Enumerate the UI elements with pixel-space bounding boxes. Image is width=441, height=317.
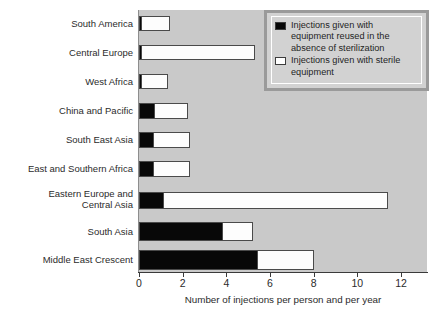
x-tick-label: 2 [168,277,198,289]
legend-item-label: Injections given with sterile equipment [291,55,400,78]
bar-segment-sterile [222,222,252,241]
bar-segment-reused [139,192,164,209]
category-label: China and Pacific [0,105,133,117]
legend-item-label: Injections given with equipment reused i… [291,20,390,54]
bar-segment-reused [139,222,223,241]
x-axis-line [138,272,428,273]
bar-chart-figure: South AmericaCentral EuropeWest AfricaCh… [0,0,441,317]
black-square-icon [275,22,286,30]
bar-segment-sterile [257,250,314,270]
bar-segment-sterile [154,103,188,119]
bar-row[interactable] [139,132,190,148]
chart-legend-inner: Injections given with equipment reused i… [271,16,422,84]
x-tick-label: 10 [342,277,372,289]
bar-segment-reused [139,250,258,270]
bar-segment-reused [139,103,155,119]
bar-row[interactable] [139,74,168,89]
bar-segment-sterile [153,132,190,148]
bar-row[interactable] [139,45,255,60]
bar-row[interactable] [139,103,188,119]
category-label: Middle East Crescent [0,254,133,266]
x-tick-label: 8 [299,277,329,289]
category-label: East and Southern Africa [0,163,133,175]
bar-segment-sterile [141,45,255,60]
bar-segment-reused [139,132,154,148]
x-tick-label: 4 [211,277,241,289]
bar-row[interactable] [139,16,170,31]
category-label: Eastern Europe and Central Asia [0,188,133,211]
legend-item-reused[interactable]: Injections given with equipment reused i… [275,20,418,54]
bar-row[interactable] [139,161,190,177]
chart-legend: Injections given with equipment reused i… [264,10,429,91]
bar-segment-sterile [141,16,170,31]
bar-row[interactable] [139,222,253,241]
category-label: West Africa [0,76,133,88]
x-tick-label: 12 [386,277,416,289]
bar-segment-sterile [141,74,168,89]
bar-segment-sterile [153,161,190,177]
bar-segment-sterile [163,192,388,209]
legend-item-sterile[interactable]: Injections given with sterile equipment [275,55,418,78]
category-label: South East Asia [0,134,133,146]
category-label: South America [0,18,133,30]
category-label: South Asia [0,226,133,238]
bar-row[interactable] [139,250,314,270]
x-axis-title: Number of injections per person and per … [138,294,428,305]
bar-segment-reused [139,161,154,177]
bar-row[interactable] [139,192,388,209]
x-tick-label: 6 [255,277,285,289]
white-square-icon [275,57,286,65]
x-tick-label: 0 [124,277,154,289]
category-label: Central Europe [0,47,133,59]
